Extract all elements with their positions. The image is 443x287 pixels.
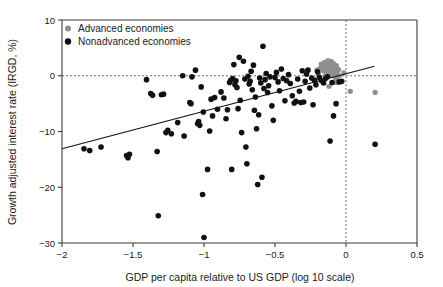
data-point-nonadvanced <box>181 133 187 139</box>
data-point-nonadvanced <box>254 126 260 132</box>
data-point-nonadvanced <box>231 62 237 68</box>
data-point-nonadvanced <box>327 138 333 144</box>
data-point-nonadvanced <box>339 79 345 85</box>
data-point-nonadvanced <box>243 144 249 150</box>
data-point-nonadvanced <box>305 67 311 73</box>
data-point-nonadvanced <box>275 79 281 85</box>
data-point-nonadvanced <box>256 112 262 118</box>
data-point-nonadvanced <box>212 95 218 101</box>
data-point-nonadvanced <box>288 81 294 87</box>
legend-marker-advanced-icon <box>65 26 71 32</box>
data-point-nonadvanced <box>295 76 301 82</box>
data-point-nonadvanced <box>229 167 235 173</box>
data-point-nonadvanced <box>193 67 199 73</box>
legend-label-nonadvanced: Nonadvanced economies <box>78 36 191 47</box>
data-point-nonadvanced <box>372 142 378 148</box>
data-point-nonadvanced <box>266 83 272 89</box>
data-point-nonadvanced <box>98 144 104 150</box>
data-point-nonadvanced <box>161 91 167 97</box>
data-point-nonadvanced <box>260 43 266 49</box>
data-point-nonadvanced <box>255 182 261 188</box>
data-point-nonadvanced <box>331 113 337 119</box>
data-point-nonadvanced <box>269 103 275 109</box>
data-point-nonadvanced <box>155 213 161 219</box>
y-tick-label: 0 <box>50 70 55 81</box>
data-point-nonadvanced <box>244 161 250 167</box>
data-point-nonadvanced <box>310 102 316 108</box>
data-point-nonadvanced <box>175 120 181 126</box>
data-point-nonadvanced <box>233 78 239 84</box>
data-point-nonadvanced <box>267 74 273 80</box>
data-point-nonadvanced <box>188 101 194 107</box>
data-point-nonadvanced <box>198 84 204 90</box>
y-tick-label: −30 <box>39 238 55 249</box>
y-tick-label: 10 <box>44 15 55 26</box>
data-point-nonadvanced <box>286 72 292 78</box>
data-point-nonadvanced <box>307 85 313 91</box>
data-point-nonadvanced <box>201 235 207 241</box>
x-axis-title: GDP per capita relative to US GDP (log 1… <box>126 271 355 283</box>
y-axis-title: Growth adjusted interest rate (IRGD, %) <box>6 39 18 225</box>
data-point-nonadvanced <box>225 107 231 113</box>
data-point-nonadvanced <box>169 131 175 137</box>
data-point-nonadvanced <box>249 87 255 93</box>
y-tick-label: −10 <box>39 126 55 137</box>
data-point-nonadvanced <box>154 149 160 155</box>
data-point-nonadvanced <box>127 152 133 158</box>
data-point-nonadvanced <box>218 89 224 95</box>
data-point-nonadvanced <box>205 167 211 173</box>
data-point-nonadvanced <box>247 79 253 85</box>
data-point-nonadvanced <box>235 106 241 112</box>
data-point-advanced <box>373 90 378 95</box>
data-point-nonadvanced <box>180 73 186 79</box>
data-point-nonadvanced <box>274 70 280 76</box>
data-point-advanced <box>348 89 353 94</box>
data-point-nonadvanced <box>245 74 251 80</box>
x-tick-label: −2 <box>57 249 68 260</box>
data-point-nonadvanced <box>259 174 265 180</box>
data-point-nonadvanced <box>200 192 206 198</box>
data-point-nonadvanced <box>87 148 93 154</box>
data-point-nonadvanced <box>282 98 288 104</box>
x-tick-label: 0 <box>343 249 348 260</box>
data-point-nonadvanced <box>207 128 213 134</box>
data-point-nonadvanced <box>293 99 299 105</box>
data-point-nonadvanced <box>329 80 335 86</box>
data-point-nonadvanced <box>150 92 156 98</box>
data-point-advanced <box>336 67 341 72</box>
data-point-nonadvanced <box>81 146 87 152</box>
data-point-nonadvanced <box>290 93 296 99</box>
data-point-nonadvanced <box>223 116 229 122</box>
data-point-nonadvanced <box>315 69 321 75</box>
data-point-nonadvanced <box>234 85 240 91</box>
x-tick-label: −1.5 <box>124 249 143 260</box>
x-tick-label: −1 <box>199 249 210 260</box>
data-point-nonadvanced <box>241 58 247 64</box>
x-tick-label: −0.5 <box>266 249 285 260</box>
data-point-nonadvanced <box>297 89 303 95</box>
scatter-plot-svg: −2−1.5−1−0.500.5 100−10−20−30 GDP per ca… <box>0 0 443 287</box>
data-point-nonadvanced <box>239 130 245 136</box>
data-point-nonadvanced <box>252 108 258 114</box>
data-point-nonadvanced <box>221 95 227 101</box>
data-point-nonadvanced <box>251 62 257 68</box>
data-point-nonadvanced <box>257 75 263 81</box>
data-point-nonadvanced <box>236 55 242 61</box>
data-point-nonadvanced <box>248 68 254 74</box>
data-point-nonadvanced <box>262 77 268 83</box>
chart-figure: −2−1.5−1−0.500.5 100−10−20−30 GDP per ca… <box>0 0 443 287</box>
legend-marker-nonadvanced-icon <box>65 38 71 44</box>
data-point-nonadvanced <box>302 79 308 85</box>
data-point-nonadvanced <box>197 123 203 129</box>
data-point-nonadvanced <box>210 113 216 119</box>
data-point-nonadvanced <box>301 99 307 105</box>
data-point-nonadvanced <box>333 101 339 107</box>
x-tick-label: 0.5 <box>410 249 423 260</box>
data-point-nonadvanced <box>271 118 277 124</box>
data-point-nonadvanced <box>279 66 285 72</box>
data-point-nonadvanced <box>144 77 150 83</box>
legend-label-advanced: Advanced economies <box>78 23 174 34</box>
data-point-nonadvanced <box>189 74 195 80</box>
y-tick-label: −20 <box>39 182 55 193</box>
